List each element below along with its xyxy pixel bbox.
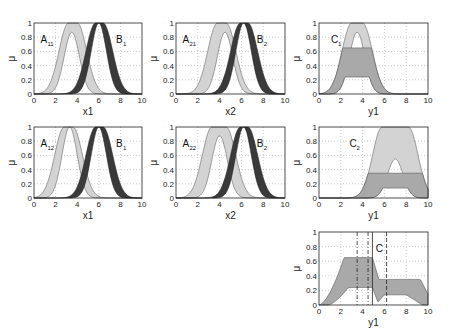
y-tick-label: 1 bbox=[170, 123, 175, 132]
x-tick-label: 6 bbox=[239, 96, 244, 105]
y-tick-label: 0.6 bbox=[163, 151, 175, 160]
subplot-row2-col1: 024681000.20.40.60.81x1μA12B1 bbox=[6, 123, 147, 221]
y-tick-label: 0.4 bbox=[306, 62, 318, 71]
x-tick-label: 10 bbox=[138, 200, 147, 209]
subplot-row2-col2: 024681000.20.40.60.81x2μA22B2 bbox=[148, 123, 290, 221]
y-tick-label: 0.2 bbox=[21, 180, 33, 189]
y-tick-label: 0.2 bbox=[306, 286, 318, 295]
series-label-subscript: 22 bbox=[190, 145, 197, 151]
x-tick-label: 4 bbox=[75, 200, 80, 209]
y-tick-label: 0.2 bbox=[306, 180, 318, 189]
x-tick-label: 6 bbox=[382, 200, 387, 209]
x-tick-label: 2 bbox=[196, 200, 201, 209]
y-tick-label: 1 bbox=[313, 228, 318, 237]
x-tick-label: 4 bbox=[360, 96, 365, 105]
x-axis-label: x1 bbox=[83, 106, 94, 117]
y-tick-label: 0.8 bbox=[21, 33, 33, 42]
series-label-A21: A bbox=[183, 34, 190, 45]
y-tick-label: 0 bbox=[313, 301, 318, 310]
x-tick-label: 0 bbox=[174, 96, 179, 105]
y-tick-label: 0.8 bbox=[306, 33, 318, 42]
x-tick-label: 8 bbox=[404, 96, 409, 105]
subplot-row1-col2: 024681000.20.40.60.81x2μA21B2 bbox=[148, 19, 290, 117]
subplot-row1-col3: 024681000.20.40.60.81y1μC1 bbox=[291, 19, 433, 117]
x-axis-label: y1 bbox=[368, 106, 379, 117]
x-axis-label: y1 bbox=[368, 210, 379, 221]
y-tick-label: 0.4 bbox=[306, 166, 318, 175]
y-tick-label: 0.6 bbox=[21, 47, 33, 56]
series-label-B1: B bbox=[116, 34, 123, 45]
y-axis-label: μ bbox=[291, 159, 302, 165]
y-tick-label: 0 bbox=[28, 194, 33, 203]
x-tick-label: 4 bbox=[217, 96, 222, 105]
series-label-subscript: 21 bbox=[190, 41, 197, 47]
x-tick-label: 0 bbox=[174, 200, 179, 209]
y-tick-label: 0 bbox=[170, 90, 175, 99]
x-tick-label: 10 bbox=[424, 200, 433, 209]
y-tick-label: 1 bbox=[28, 19, 33, 28]
series-label-A12: A bbox=[40, 138, 47, 149]
y-tick-label: 0.8 bbox=[306, 137, 318, 146]
x-axis-label: y1 bbox=[368, 317, 379, 328]
figure-canvas: 024681000.20.40.60.81x1μA11B1024681000.2… bbox=[0, 0, 449, 332]
y-tick-label: 0.6 bbox=[163, 47, 175, 56]
y-tick-label: 1 bbox=[28, 123, 33, 132]
x-tick-label: 2 bbox=[339, 96, 344, 105]
series-label-B2: B bbox=[257, 34, 264, 45]
y-tick-label: 0.2 bbox=[163, 180, 175, 189]
x-tick-label: 4 bbox=[75, 96, 80, 105]
y-tick-label: 0.4 bbox=[306, 272, 318, 281]
series-label-subscript: 12 bbox=[47, 145, 54, 151]
x-tick-label: 0 bbox=[32, 200, 37, 209]
x-tick-label: 2 bbox=[339, 200, 344, 209]
y-tick-label: 0.2 bbox=[306, 76, 318, 85]
series-label-A22: A bbox=[183, 138, 190, 149]
x-tick-label: 4 bbox=[360, 200, 365, 209]
y-tick-label: 0 bbox=[28, 90, 33, 99]
x-tick-label: 8 bbox=[118, 200, 123, 209]
y-tick-label: 0.8 bbox=[163, 137, 175, 146]
series-label-A11: A bbox=[40, 34, 47, 45]
x-tick-label: 0 bbox=[32, 96, 37, 105]
x-tick-label: 10 bbox=[424, 307, 433, 316]
x-tick-label: 6 bbox=[97, 200, 102, 209]
y-tick-label: 1 bbox=[313, 123, 318, 132]
y-axis-label: μ bbox=[6, 159, 17, 165]
x-axis-label: x2 bbox=[225, 210, 236, 221]
x-tick-label: 2 bbox=[53, 200, 58, 209]
x-tick-label: 6 bbox=[382, 96, 387, 105]
y-axis-label: μ bbox=[291, 55, 302, 61]
x-tick-label: 8 bbox=[118, 96, 123, 105]
y-tick-label: 0.6 bbox=[306, 47, 318, 56]
y-tick-label: 0.8 bbox=[306, 243, 318, 252]
x-tick-label: 10 bbox=[424, 96, 433, 105]
y-tick-label: 0.8 bbox=[21, 137, 33, 146]
series-label-B2: B bbox=[257, 138, 264, 149]
x-tick-label: 6 bbox=[97, 96, 102, 105]
subplot-row1-col1: 024681000.20.40.60.81x1μA11B1 bbox=[6, 19, 147, 117]
y-tick-label: 0.4 bbox=[163, 62, 175, 71]
y-tick-label: 0.4 bbox=[21, 166, 33, 175]
y-tick-label: 0 bbox=[313, 90, 318, 99]
x-tick-label: 10 bbox=[281, 96, 290, 105]
x-tick-label: 2 bbox=[339, 307, 344, 316]
y-tick-label: 0 bbox=[313, 194, 318, 203]
x-tick-label: 0 bbox=[317, 200, 322, 209]
y-tick-label: 0.6 bbox=[306, 257, 318, 266]
x-tick-label: 2 bbox=[53, 96, 58, 105]
x-tick-label: 8 bbox=[261, 200, 266, 209]
x-tick-label: 8 bbox=[404, 200, 409, 209]
y-axis-label: μ bbox=[148, 55, 159, 61]
y-tick-label: 1 bbox=[313, 19, 318, 28]
x-tick-label: 10 bbox=[281, 200, 290, 209]
y-tick-label: 0.6 bbox=[21, 151, 33, 160]
y-tick-label: 0.6 bbox=[306, 151, 318, 160]
series-label-subscript: 11 bbox=[47, 41, 54, 47]
subplot-row3-col3: 024681000.20.40.60.81y1μC bbox=[291, 228, 433, 328]
x-tick-label: 4 bbox=[217, 200, 222, 209]
x-axis-label: x1 bbox=[83, 210, 94, 221]
x-tick-label: 2 bbox=[196, 96, 201, 105]
x-tick-label: 6 bbox=[382, 307, 387, 316]
x-axis-label: x2 bbox=[225, 106, 236, 117]
y-tick-label: 0.2 bbox=[21, 76, 33, 85]
